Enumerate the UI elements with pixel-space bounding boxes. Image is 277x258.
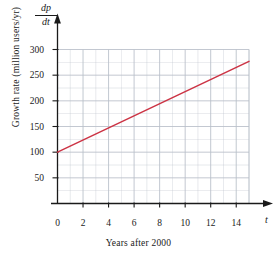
major-gridlines [58, 50, 250, 204]
axis-ticks [53, 50, 237, 208]
y-tick-label: 100 [18, 147, 44, 157]
x-tick-label: 2 [73, 218, 93, 228]
y-tick-label: 150 [18, 122, 44, 132]
x-tick-label: 6 [124, 218, 144, 228]
x-tick-label: 12 [201, 218, 221, 228]
y-tick-label: 300 [18, 45, 44, 55]
x-tick-label: 0 [48, 218, 68, 228]
y-tick-label: 50 [18, 173, 44, 183]
y-tick-label: 250 [18, 70, 44, 80]
y-tick-labels: 50100150200250300 [0, 0, 44, 258]
y-tick-label: 200 [18, 96, 44, 106]
x-tick-label: 10 [175, 218, 195, 228]
x-tick-label: 8 [150, 218, 170, 228]
chart-figure: dp dt Growth rate (million users/yr) Yea… [0, 0, 277, 258]
x-tick-label: 4 [99, 218, 119, 228]
x-tick-label: 14 [226, 218, 246, 228]
